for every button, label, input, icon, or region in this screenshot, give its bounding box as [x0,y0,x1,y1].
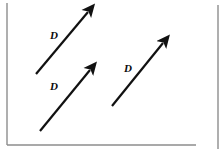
vector-d-lower-left [40,70,90,131]
vector-group: D D D [36,12,163,131]
figure-canvas: D D D [0,0,224,151]
vector-d-upper-left-label: D [49,29,58,41]
vector-d-right [112,43,163,106]
vector-d-lower-left-label: D [49,80,58,92]
vector-d-upper-left [36,12,88,74]
page-frame [7,3,218,149]
vector-d-right-label: D [123,62,132,74]
vector-diagram: D D D [0,0,224,151]
